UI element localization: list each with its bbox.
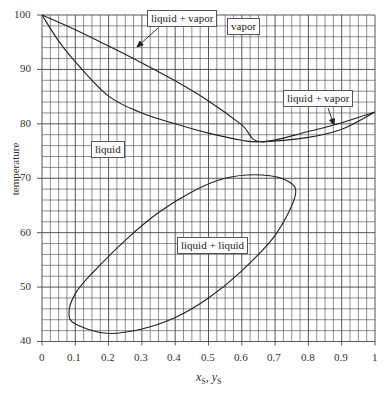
x-tick-0.4: 0.4 — [167, 351, 181, 363]
y-tick-90: 90 — [20, 62, 31, 74]
y-tick-80: 80 — [20, 117, 31, 129]
label-liquid-vapor-right: liquid + vapor — [283, 90, 353, 107]
label-vapor: vapor — [227, 18, 260, 35]
x-tick-0.6: 0.6 — [234, 351, 248, 363]
y-tick-50: 50 — [20, 280, 31, 292]
x-tick-0.7: 0.7 — [267, 351, 281, 363]
x-tick-0.8: 0.8 — [301, 351, 315, 363]
x-axis-label: xS, yS — [196, 370, 222, 386]
label-liquid: liquid — [91, 141, 125, 158]
y-tick-70: 70 — [20, 171, 31, 183]
y-tick-60: 60 — [20, 226, 31, 238]
x-tick-0.1: 0.1 — [67, 351, 81, 363]
x-tick-0.2: 0.2 — [101, 351, 115, 363]
grid-lines — [37, 15, 375, 346]
x-tick-0: 0 — [39, 351, 45, 363]
x-axis-label-sub-y: S — [217, 377, 221, 386]
label-liquid-liquid: liquid + liquid — [177, 237, 248, 254]
label-liquid-vapor-upper: liquid + vapor — [147, 10, 217, 27]
x-tick-0.5: 0.5 — [201, 351, 215, 363]
phase-diagram-plot — [0, 0, 385, 393]
x-tick-0.9: 0.9 — [334, 351, 348, 363]
y-tick-100: 100 — [14, 8, 31, 20]
x-tick-0.3: 0.3 — [134, 351, 148, 363]
y-tick-40: 40 — [20, 334, 31, 346]
x-tick-1: 1 — [372, 351, 378, 363]
y-axis-label: temperature — [9, 134, 21, 204]
arrow-liquid-vapor-upper-icon — [137, 28, 158, 47]
